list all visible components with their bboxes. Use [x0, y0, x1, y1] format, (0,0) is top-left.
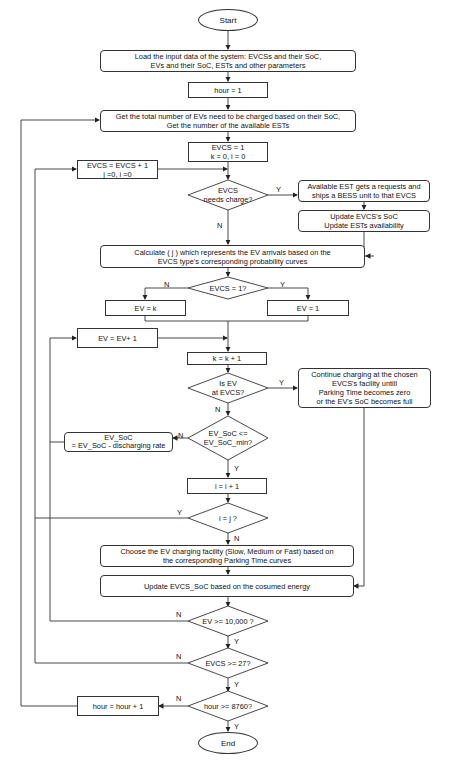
- ev-k-box: EV = k: [105, 300, 186, 316]
- decision-ev-at-evcs: Is EV at EVCS?: [188, 373, 268, 403]
- label-hour-8760-no: N: [176, 695, 181, 703]
- label-evcs-1-yes: Y: [280, 281, 285, 289]
- label-i-j-no: N: [234, 535, 239, 543]
- label-ev-10000-no: N: [176, 611, 181, 619]
- label-ev-at-evcs-yes: Y: [279, 379, 284, 387]
- choose-facility-box: Choose the EV charging facility (Slow, M…: [100, 545, 354, 567]
- calculate-j-box: Calculate ( j ) which represents the EV …: [100, 245, 365, 268]
- label-i-j-yes: Y: [177, 509, 182, 517]
- hour-init-box: hour = 1: [188, 82, 268, 98]
- decision-ev-10000: EV >= 10,000 ?: [188, 606, 268, 636]
- decision-evcs-1: EVCS = 1?: [188, 277, 268, 299]
- decision-evcs-27: EVCS >= 27?: [188, 648, 268, 678]
- load-input-box: Load the input data of the system: EVCSs…: [100, 50, 356, 72]
- est-request-box: Available EST gets a requests and ships …: [298, 180, 430, 202]
- ev-increment-box: EV = EV+ 1: [77, 328, 158, 348]
- get-total-box: Get the total number of EVs need to be c…: [100, 110, 356, 132]
- label-evcs-27-no: N: [176, 653, 181, 661]
- evcs-increment-box: EVCS = EVCS + 1 j =0, i =0: [77, 160, 158, 179]
- label-hour-8760-yes: Y: [234, 723, 239, 731]
- update-soc-est-box: Update EVCS's SoC Update ESTs availabili…: [298, 210, 430, 232]
- hour-increment-box: hour = hour + 1: [77, 696, 159, 716]
- decision-i-j: i = j ?: [188, 503, 268, 533]
- start-terminal: Start: [198, 9, 258, 31]
- label-evcs-27-yes: Y: [234, 681, 239, 689]
- end-terminal: End: [198, 732, 258, 754]
- ev-soc-discharge-box: EV_SoC = EV_SoC - discharging rate: [64, 432, 173, 452]
- label-evcs-1-no: N: [164, 281, 169, 289]
- flowchart-canvas: Start End Load the input data of the sys…: [0, 0, 452, 772]
- evcs-init-box: EVCS = 1 k = 0, i = 0: [188, 142, 268, 162]
- label-ev-at-evcs-no: N: [215, 406, 220, 414]
- ev-1-box: EV = 1: [267, 300, 349, 316]
- continue-charging-box: Continue charging at the chosen EVCS's f…: [298, 368, 431, 408]
- label-needs-charge-no: N: [217, 222, 222, 230]
- label-ev-soc-no: N: [178, 432, 183, 440]
- decision-hour-8760: hour >= 8760?: [188, 691, 268, 721]
- k-increment-box: k = k + 1: [187, 352, 267, 365]
- decision-needs-charge: EVCS needs charge?: [188, 180, 268, 210]
- decision-ev-soc: EV_SoC <= EV_SoC_min?: [188, 416, 268, 460]
- label-ev-soc-yes: Y: [234, 465, 239, 473]
- label-needs-charge-yes: Y: [276, 186, 281, 194]
- label-ev-10000-yes: Y: [234, 638, 239, 646]
- update-evcs-soc-box: Update EVCS_SoC based on the cosumed ene…: [100, 575, 354, 597]
- i-increment-box: i = i + 1: [187, 478, 267, 494]
